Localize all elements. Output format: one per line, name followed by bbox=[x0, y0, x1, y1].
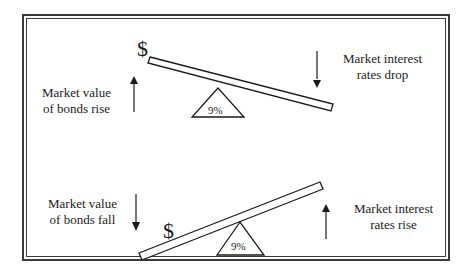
top-plank bbox=[148, 57, 333, 111]
bottom-dollar-symbol: $ bbox=[163, 220, 174, 242]
bottom-left-label-line2: of bonds fall bbox=[48, 212, 117, 228]
top-left-up-arrow-icon bbox=[130, 76, 138, 112]
top-right-label-line2: rates drop bbox=[343, 67, 422, 83]
seesaw-diagram bbox=[0, 0, 471, 275]
top-left-label-line1: Market value bbox=[42, 85, 111, 101]
bottom-right-label: Market interest rates rise bbox=[354, 201, 433, 233]
top-right-label: Market interest rates drop bbox=[343, 51, 422, 83]
top-right-down-arrow-icon bbox=[313, 51, 321, 88]
top-dollar-symbol: $ bbox=[137, 38, 148, 60]
top-right-label-line1: Market interest bbox=[343, 51, 422, 67]
bottom-fulcrum-label: 9% bbox=[231, 240, 246, 252]
top-fulcrum-label: 9% bbox=[208, 104, 223, 116]
bottom-left-label: Market value of bonds fall bbox=[48, 196, 117, 228]
top-left-label-line2: of bonds rise bbox=[42, 101, 111, 117]
bottom-right-up-arrow-icon bbox=[322, 204, 330, 239]
top-left-label: Market value of bonds rise bbox=[42, 85, 111, 117]
bottom-right-label-line1: Market interest bbox=[354, 201, 433, 217]
bottom-right-label-line2: rates rise bbox=[354, 217, 433, 233]
bottom-left-down-arrow-icon bbox=[132, 194, 140, 231]
bottom-left-label-line1: Market value bbox=[48, 196, 117, 212]
